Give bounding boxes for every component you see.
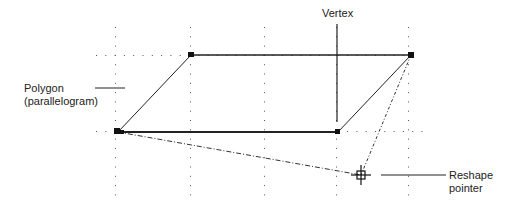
vertex-label: Vertex <box>322 7 353 20</box>
reshape-label-line2: pointer <box>449 182 493 195</box>
reshape-preview-lines <box>118 55 411 175</box>
polygon-label-line1: Polygon <box>24 82 98 95</box>
reshape-pointer-icon <box>351 165 371 185</box>
vertex-handle[interactable] <box>335 129 340 134</box>
vertex-handle[interactable] <box>188 52 194 57</box>
vertex-handle[interactable] <box>120 130 124 134</box>
polygon-label: Polygon (parallelogram) <box>24 82 98 108</box>
polygon-label-line2: (parallelogram) <box>24 95 98 108</box>
reshape-label-line1: Reshape <box>449 169 493 182</box>
reshape-pointer-label: Reshape pointer <box>449 169 493 195</box>
grid-dots <box>96 27 423 195</box>
vertex-handle[interactable] <box>408 52 414 58</box>
vertex-handle[interactable] <box>114 128 120 134</box>
